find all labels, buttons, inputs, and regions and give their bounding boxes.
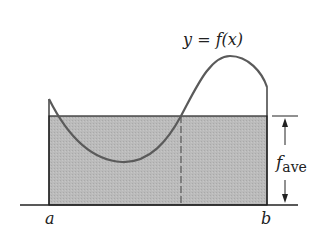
function-label: y = f(x) bbox=[182, 30, 243, 49]
arrow-down-icon bbox=[282, 194, 288, 203]
arrow-up-icon bbox=[282, 118, 288, 127]
label-a: a bbox=[45, 209, 55, 228]
label-b: b bbox=[261, 209, 271, 228]
mean-value-diagram: fave y = f(x) a b bbox=[0, 0, 327, 234]
f-ave-label: fave bbox=[274, 152, 307, 175]
average-rectangle bbox=[49, 116, 267, 205]
